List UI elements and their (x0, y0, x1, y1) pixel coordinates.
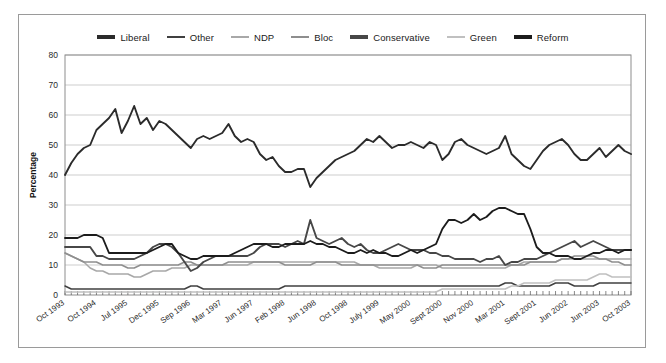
x-axis-tick-label: Oct 2003 (600, 298, 632, 324)
x-axis-tick-label: Mar 1997 (191, 298, 224, 325)
y-axis-title: Percentage (28, 152, 38, 198)
y-axis-tick-label: 70 (49, 80, 59, 90)
y-axis-tick-label: 20 (49, 230, 59, 240)
x-axis-tick-label: Jun 1997 (223, 298, 256, 325)
y-axis-tick-label: 40 (49, 170, 59, 180)
y-axis-tick-label: 50 (49, 140, 59, 150)
x-axis-tick-label: Oct 1993 (34, 298, 66, 324)
x-axis-tick-label: Jul 1995 (99, 298, 129, 323)
x-axis-tick-label: Oct 1994 (66, 298, 98, 324)
x-axis-tick-label: Jun 2002 (537, 298, 570, 325)
chart-plot-area: 01020304050607080PercentageOct 1993Oct 1… (19, 15, 647, 349)
series-line-conservative (65, 220, 631, 271)
y-axis-tick-label: 60 (49, 110, 59, 120)
line-chart-svg: 01020304050607080PercentageOct 1993Oct 1… (19, 15, 647, 349)
y-axis-tick-label: 30 (49, 200, 59, 210)
series-line-other (65, 283, 631, 289)
x-axis-tick-label: Sept 2000 (408, 298, 443, 327)
x-axis-tick-label: July 1999 (347, 298, 381, 325)
x-axis-tick-label: Mar 2001 (474, 298, 507, 325)
y-axis-tick-label: 0 (53, 290, 58, 300)
y-axis-tick-label: 80 (49, 50, 59, 60)
chart-container: LiberalOtherNDPBlocConservativeGreenRefo… (18, 14, 646, 348)
x-axis-tick-label: May 2000 (378, 298, 412, 326)
x-axis-tick-label: Oct 1998 (317, 298, 349, 324)
x-axis-tick-label: Nov 2000 (442, 298, 476, 325)
x-axis-tick-label: Jun 2003 (569, 298, 602, 325)
x-axis-tick-label: Jun 1998 (286, 298, 319, 325)
x-axis-tick-label: Sept 2001 (503, 298, 538, 327)
x-axis-tick-label: Sep 1996 (159, 298, 193, 325)
x-axis-tick-label: Feb 1998 (253, 298, 286, 325)
y-axis-tick-label: 10 (49, 260, 59, 270)
series-line-reform (65, 208, 631, 259)
x-axis-tick-label: Dec 1995 (127, 298, 161, 325)
